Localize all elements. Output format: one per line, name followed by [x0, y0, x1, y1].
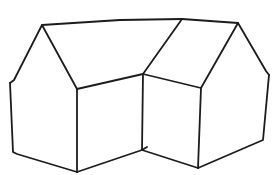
valley-line — [143, 19, 182, 74]
right-roof-ridge — [182, 19, 238, 23]
right-house — [142, 19, 269, 168]
left-house — [10, 19, 182, 172]
right-gable-outline — [238, 23, 269, 75]
valley-wall-corner — [142, 74, 147, 150]
house-line-drawing — [0, 0, 273, 175]
right-side-wall — [198, 75, 269, 168]
left-front-base — [77, 150, 142, 172]
right-front-base — [142, 150, 198, 168]
left-wall-side — [10, 83, 77, 172]
left-gable-outline — [10, 25, 77, 89]
left-roof-eave — [77, 74, 143, 89]
right-front-corner — [198, 88, 201, 168]
left-roof-ridge — [42, 19, 182, 25]
right-roof-eave — [143, 23, 238, 88]
